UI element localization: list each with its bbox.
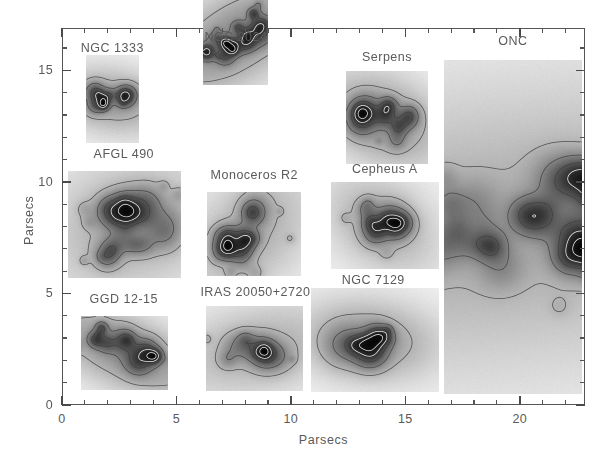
panel-label-ngc-7129: NGC 7129 <box>342 273 405 287</box>
y-tick-right-3 <box>580 337 585 338</box>
x-tick-top-10 <box>290 28 292 37</box>
x-tick-9 <box>267 400 268 405</box>
x-tick-label-0: 0 <box>58 412 65 426</box>
x-tick-7 <box>222 400 223 405</box>
y-tick-right-12 <box>580 137 585 138</box>
x-tick-top-19 <box>496 28 497 33</box>
x-tick-top-3 <box>130 28 131 33</box>
y-tick-right-5 <box>576 293 585 295</box>
y-tick-right-4 <box>580 315 585 316</box>
cluster-panel-serpens <box>346 71 428 164</box>
y-tick-6 <box>62 271 67 272</box>
x-tick-2 <box>107 400 108 405</box>
y-tick-3 <box>62 337 67 338</box>
x-tick-21 <box>542 400 543 405</box>
x-tick-4 <box>153 400 154 405</box>
y-tick-right-8 <box>580 226 585 227</box>
y-tick-right-16 <box>580 47 585 48</box>
y-tick-right-15 <box>576 70 585 72</box>
cluster-panel-cepheus-a <box>331 182 439 269</box>
y-tick-8 <box>62 226 67 227</box>
cluster-panel-monoceros-r2 <box>207 192 301 276</box>
panel-label-cepheus-a: Cepheus A <box>352 162 418 176</box>
y-tick-right-11 <box>580 159 585 160</box>
x-tick-10 <box>290 396 292 405</box>
cluster-panel-afgl-490 <box>68 171 181 278</box>
figure-canvas: 05101520051015 Parsecs Parsecs NGC 1333N… <box>0 0 616 469</box>
y-tick-5 <box>62 293 71 295</box>
cluster-panel-iras-20050-2720 <box>206 306 303 391</box>
x-tick-14 <box>382 400 383 405</box>
y-tick-right-7 <box>580 248 585 249</box>
y-tick-right-9 <box>580 204 585 205</box>
y-axis-title: Parsecs <box>22 195 36 244</box>
panel-label-ngc-2024: NGC 2024 <box>204 30 267 44</box>
x-tick-label-5: 5 <box>173 412 180 426</box>
x-tick-20 <box>519 396 521 405</box>
x-tick-3 <box>130 400 131 405</box>
y-tick-right-14 <box>580 92 585 93</box>
cluster-panel-ngc-1333 <box>86 55 139 143</box>
y-tick-9 <box>62 204 67 205</box>
x-tick-top-6 <box>199 28 200 33</box>
panel-label-ggd-12-15: GGD 12-15 <box>90 292 158 306</box>
x-tick-label-10: 10 <box>284 412 299 426</box>
x-tick-top-14 <box>382 28 383 33</box>
x-tick-8 <box>245 400 246 405</box>
x-tick-top-12 <box>336 28 337 33</box>
y-tick-16 <box>62 47 67 48</box>
x-tick-13 <box>359 400 360 405</box>
y-tick-14 <box>62 92 67 93</box>
y-tick-right-13 <box>580 114 585 115</box>
x-tick-top-13 <box>359 28 360 33</box>
y-tick-label-10: 10 <box>38 175 53 189</box>
x-tick-top-9 <box>267 28 268 33</box>
x-tick-15 <box>405 396 407 405</box>
x-tick-1 <box>84 400 85 405</box>
y-tick-15 <box>62 70 71 72</box>
x-tick-top-17 <box>451 28 452 33</box>
y-tick-right-10 <box>576 181 585 183</box>
y-tick-right-2 <box>580 360 585 361</box>
y-tick-4 <box>62 315 67 316</box>
x-tick-22 <box>565 400 566 405</box>
y-tick-12 <box>62 137 67 138</box>
x-tick-top-1 <box>84 28 85 33</box>
x-tick-label-15: 15 <box>398 412 413 426</box>
y-tick-13 <box>62 114 67 115</box>
y-tick-label-5: 5 <box>46 286 53 300</box>
y-tick-right-6 <box>580 271 585 272</box>
x-tick-11 <box>313 400 314 405</box>
x-tick-17 <box>451 400 452 405</box>
panel-label-iras-20050-2720: IRAS 20050+2720 <box>200 285 310 299</box>
cluster-panel-ngc-7129 <box>311 288 439 392</box>
x-tick-top-21 <box>542 28 543 33</box>
x-tick-19 <box>496 400 497 405</box>
x-tick-top-0 <box>61 28 63 37</box>
panel-label-afgl-490: AFGL 490 <box>94 147 155 161</box>
y-tick-right-1 <box>580 382 585 383</box>
y-tick-label-15: 15 <box>38 63 53 77</box>
x-tick-5 <box>176 396 178 405</box>
x-tick-top-11 <box>313 28 314 33</box>
x-tick-top-2 <box>107 28 108 33</box>
y-tick-11 <box>62 159 67 160</box>
cluster-panel-onc <box>444 60 582 394</box>
panel-label-monoceros-r2: Monoceros R2 <box>211 168 298 182</box>
panel-label-onc: ONC <box>498 34 527 48</box>
x-tick-top-4 <box>153 28 154 33</box>
x-tick-6 <box>199 400 200 405</box>
x-tick-top-18 <box>473 28 474 33</box>
cluster-panel-ggd-12-15 <box>81 316 168 390</box>
x-tick-18 <box>473 400 474 405</box>
x-tick-16 <box>428 400 429 405</box>
y-tick-10 <box>62 181 71 183</box>
panel-label-ngc-1333: NGC 1333 <box>81 41 144 55</box>
y-tick-right-0 <box>576 404 585 406</box>
panel-label-serpens: Serpens <box>362 50 412 64</box>
x-tick-top-5 <box>176 28 178 37</box>
x-tick-12 <box>336 400 337 405</box>
y-tick-label-0: 0 <box>46 398 53 412</box>
y-tick-7 <box>62 248 67 249</box>
x-axis-title: Parsecs <box>299 433 348 447</box>
